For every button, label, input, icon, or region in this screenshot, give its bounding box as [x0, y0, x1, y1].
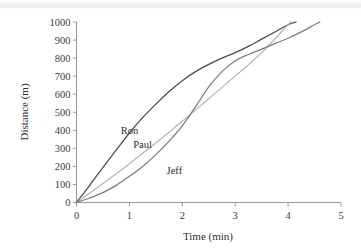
- y-tick-label: 800: [55, 53, 71, 64]
- y-tick-label: 200: [55, 161, 71, 172]
- y-tick-label: 0: [65, 197, 70, 208]
- x-tick-label: 2: [180, 210, 185, 221]
- chart-canvas: 01002003004005006007008009001000 012345 …: [0, 0, 361, 248]
- series-curve-paul: [77, 22, 292, 203]
- y-tick-label: 300: [55, 143, 71, 154]
- series-label-paul: Paul: [133, 139, 152, 150]
- y-tick-label: 500: [55, 107, 71, 118]
- series-inline-labels: RonPaulJeff: [121, 125, 183, 176]
- distance-time-chart: 01002003004005006007008009001000 012345 …: [0, 0, 361, 248]
- x-tick-label: 0: [74, 210, 79, 221]
- series-curves: [77, 22, 320, 203]
- x-tick-label: 1: [127, 210, 132, 221]
- y-axis-tick-labels: 01002003004005006007008009001000: [50, 17, 71, 209]
- x-tick-label: 3: [233, 210, 238, 221]
- y-tick-label: 600: [55, 89, 71, 100]
- x-axis-tick-labels: 012345: [74, 210, 344, 221]
- series-label-ron: Ron: [121, 125, 139, 136]
- y-tick-label: 900: [55, 35, 71, 46]
- x-tick-label: 4: [285, 210, 291, 221]
- y-axis-title: Distance (m): [18, 83, 31, 140]
- x-axis-ticks: [77, 203, 342, 207]
- x-axis-title: Time (min): [183, 230, 233, 243]
- y-tick-label: 1000: [50, 17, 71, 28]
- x-tick-label: 5: [338, 210, 343, 221]
- y-tick-label: 400: [55, 125, 71, 136]
- y-tick-label: 700: [55, 71, 71, 82]
- series-label-jeff: Jeff: [167, 165, 183, 176]
- y-tick-label: 100: [55, 179, 71, 190]
